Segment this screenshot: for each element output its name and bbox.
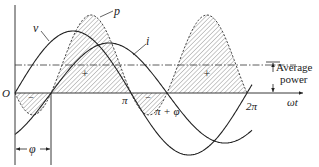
average-power-label-line1: Average xyxy=(276,61,313,73)
pi-plus-phi-label: π + φ xyxy=(155,105,180,117)
current-label-leader xyxy=(133,44,146,55)
power-label: p xyxy=(113,4,120,18)
negative-sign-1: − xyxy=(28,92,34,103)
time-axis-label: ωt xyxy=(287,96,299,108)
phase-label: φ xyxy=(29,142,36,156)
negative-sign-2: − xyxy=(145,92,151,103)
power-label-leader xyxy=(100,11,113,17)
average-power-label-line2: power xyxy=(280,73,308,85)
positive-sign-1: + xyxy=(82,67,89,81)
power-waveform-diagram: p v i O π π + φ 2π ωt φ + + − − Average … xyxy=(0,0,319,167)
positive-sign-2: + xyxy=(204,67,211,81)
two-pi-label: 2π xyxy=(246,100,258,112)
origin-label: O xyxy=(2,87,10,99)
current-label: i xyxy=(146,34,149,48)
voltage-label-leader xyxy=(41,31,49,41)
voltage-label: v xyxy=(33,21,39,35)
pi-label: π xyxy=(122,94,128,106)
